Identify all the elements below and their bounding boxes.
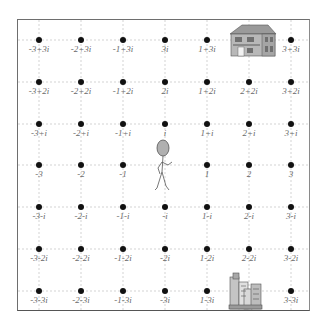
- grid-point-dot: [246, 204, 252, 210]
- grid-point-label: -3-3i: [30, 296, 48, 305]
- grid-point-label: 2+2i: [240, 87, 258, 96]
- grid-point-label: -3: [35, 170, 43, 179]
- grid-point-dot: [204, 162, 210, 168]
- grid-point-dot: [36, 162, 42, 168]
- grid-point-dot: [120, 246, 126, 252]
- grid-point-dot: [246, 246, 252, 252]
- grid-point-dot: [246, 121, 252, 127]
- grid-point-label: 2-2i: [242, 254, 257, 263]
- grid-point-label: -2: [77, 170, 85, 179]
- grid-point-dot: [120, 79, 126, 85]
- grid-point-dot: [162, 204, 168, 210]
- grid-point-dot: [288, 162, 294, 168]
- grid-point-dot: [36, 37, 42, 43]
- grid-point-label: 3: [289, 170, 294, 179]
- grid-point-dot: [288, 121, 294, 127]
- grid-point-dot: [78, 37, 84, 43]
- grid-point-label: -2+i: [73, 129, 89, 138]
- grid-point-dot: [78, 79, 84, 85]
- grid-point-label: -3i: [160, 296, 170, 305]
- grid-point-dot: [288, 204, 294, 210]
- grid-point-label: -1+i: [115, 129, 131, 138]
- grid-point-label: i: [164, 129, 167, 138]
- grid-point-dot: [288, 288, 294, 294]
- grid-point-dot: [36, 288, 42, 294]
- grid-point-label: 1: [205, 170, 210, 179]
- grid-point-dot: [204, 288, 210, 294]
- grid-point-label: 1+i: [200, 129, 213, 138]
- grid-point-dot: [120, 37, 126, 43]
- grid-point-dot: [204, 204, 210, 210]
- grid-point-label: 3+3i: [282, 45, 300, 54]
- grid-point-label: 1+3i: [198, 45, 216, 54]
- grid-point-dot: [246, 79, 252, 85]
- grid-point-dot: [162, 246, 168, 252]
- grid-point-label: -2-2i: [72, 254, 90, 263]
- grid-point-dot: [162, 121, 168, 127]
- grid-point-label: -2+3i: [71, 45, 92, 54]
- grid-point-dot: [288, 37, 294, 43]
- grid-point-label: -2+2i: [71, 87, 92, 96]
- grid-point-label: -1-i: [117, 212, 130, 221]
- grid-point-label: 3-i: [286, 212, 296, 221]
- grid-point-label: 3i: [161, 45, 168, 54]
- grid-point-label: -2-i: [75, 212, 88, 221]
- grid-point-label: 2-i: [244, 212, 254, 221]
- grid-point-label: -1+2i: [113, 87, 134, 96]
- grid-point-dot: [78, 288, 84, 294]
- grid-point-label: 1-3i: [200, 296, 215, 305]
- grid-point-label: 3+i: [284, 129, 297, 138]
- grid-point-dot: [78, 204, 84, 210]
- grid-point-label: -1-2i: [114, 254, 132, 263]
- grid-point-dot: [78, 246, 84, 252]
- grid-point-dot: [36, 79, 42, 85]
- grid-point-label: -i: [162, 212, 168, 221]
- grid-point-dot: [162, 79, 168, 85]
- grid-point-label: 2+i: [242, 129, 255, 138]
- grid-point-label: -3+i: [31, 129, 47, 138]
- grid-point-dot: [204, 79, 210, 85]
- grid-point-dot: [204, 121, 210, 127]
- grid-point-label: 1-i: [202, 212, 212, 221]
- grid-point-label: -2-3i: [72, 296, 90, 305]
- grid-point-dot: [120, 162, 126, 168]
- grid-point-dot: [36, 246, 42, 252]
- grid-point-label: 3+2i: [282, 87, 300, 96]
- grid-point-label: -3-i: [33, 212, 46, 221]
- grid-point-dot: [162, 37, 168, 43]
- grid-point-dot: [204, 246, 210, 252]
- grid-point-dot: [36, 204, 42, 210]
- grid-point-label: 2i: [161, 87, 168, 96]
- grid-point-label: -3+2i: [29, 87, 50, 96]
- grid-point-label: -2i: [160, 254, 170, 263]
- grid-point-dot: [120, 204, 126, 210]
- grid-point-dot: [246, 162, 252, 168]
- complex-plane-diagram: -3+3i-2+3i-1+3i3i1+3i3+3i-3+2i-2+2i-1+2i…: [0, 0, 326, 322]
- grid-point-label: -3-2i: [30, 254, 48, 263]
- grid-point-dot: [120, 288, 126, 294]
- grid-point-dot: [78, 121, 84, 127]
- grid-point-dot: [162, 288, 168, 294]
- grid-point-dot: [288, 79, 294, 85]
- grid-point-dot: [78, 162, 84, 168]
- grid-point-label: 1-2i: [200, 254, 215, 263]
- grid-point-dot: [120, 121, 126, 127]
- grid-point-label: -1: [119, 170, 127, 179]
- grid-point-dot: [288, 246, 294, 252]
- grid-point-label: -1-3i: [114, 296, 132, 305]
- grid-point-dot: [36, 121, 42, 127]
- grid-point-label: 2: [247, 170, 252, 179]
- grid-point-label: -3+3i: [29, 45, 50, 54]
- grid-point-dot: [204, 37, 210, 43]
- grid-point-label: 3-3i: [284, 296, 299, 305]
- grid-point-label: 3-2i: [284, 254, 299, 263]
- grid-point-label: -1+3i: [113, 45, 134, 54]
- grid-point-label: 1+2i: [198, 87, 216, 96]
